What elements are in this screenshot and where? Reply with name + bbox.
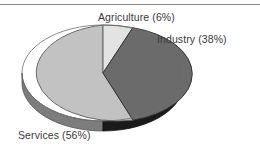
chart-page: Agriculture (6%) Industry (38%) Services… bbox=[0, 0, 260, 151]
pie-label-agriculture: Agriculture (6%) bbox=[98, 11, 175, 23]
pie-label-services: Services (56%) bbox=[18, 129, 91, 141]
pie-label-industry: Industry (38%) bbox=[157, 33, 227, 45]
